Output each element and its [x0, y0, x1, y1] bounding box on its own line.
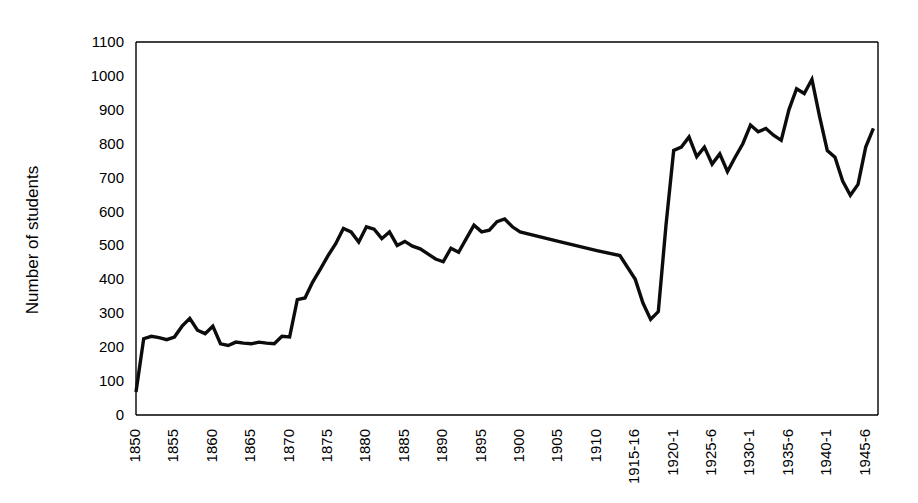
- y-tick-label: 0: [116, 406, 124, 423]
- x-tick-label: 1875: [318, 429, 335, 462]
- x-tick-label: 1880: [356, 429, 373, 462]
- x-tick-label: 1890: [433, 429, 450, 462]
- x-tick-label: 1930-1: [740, 429, 757, 476]
- x-tick-label: 1855: [164, 429, 181, 462]
- y-tick-label: 1000: [91, 67, 124, 84]
- x-tick-label: 1915-16: [625, 429, 642, 484]
- x-tick-label: 1940-1: [817, 429, 834, 476]
- y-tick-label: 1100: [92, 33, 124, 50]
- y-tick-label: 200: [99, 338, 124, 355]
- x-tick-label: 1865: [241, 429, 258, 462]
- x-tick-label: 1885: [395, 429, 412, 462]
- chart-container: 010020030040050060070080090010001100 185…: [0, 0, 918, 503]
- y-tick-label: 400: [99, 270, 124, 287]
- y-tick-label: 900: [99, 101, 124, 118]
- y-tick-label: 100: [99, 372, 124, 389]
- y-tick-label: 800: [99, 135, 124, 152]
- x-tick-label: 1910: [587, 429, 604, 462]
- x-tick-label: 1850: [126, 429, 143, 462]
- x-tick-label: 1900: [510, 429, 527, 462]
- x-tick-label: 1870: [280, 429, 297, 462]
- x-tick-label: 1925-6: [702, 429, 719, 476]
- x-tick-label: 1920-1: [664, 429, 681, 476]
- y-axis-title: Number of students: [23, 166, 42, 314]
- line-chart: 010020030040050060070080090010001100 185…: [0, 0, 918, 503]
- y-tick-label: 700: [99, 169, 124, 186]
- x-tick-label: 1945-6: [856, 429, 873, 476]
- x-tick-label: 1895: [472, 429, 489, 462]
- y-tick-label: 500: [99, 236, 124, 253]
- y-tick-label: 600: [99, 203, 124, 220]
- x-tick-label: 1935-6: [779, 429, 796, 476]
- x-tick-label: 1860: [203, 429, 220, 462]
- y-tick-label: 300: [99, 304, 124, 321]
- x-tick-label: 1905: [548, 429, 565, 462]
